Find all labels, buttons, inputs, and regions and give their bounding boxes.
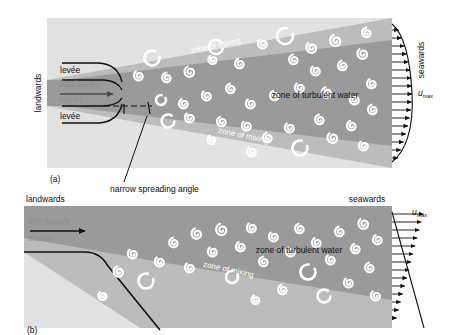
figure-canvas: levée levée distributary mouth landwards… (0, 0, 449, 335)
distributary-label-line1-b: distributary (28, 216, 70, 226)
panel-a: levée levée distributary mouth landwards… (33, 18, 433, 194)
panel-b-tag: (b) (27, 325, 38, 335)
distributary-label-line1-a: distributary (58, 79, 100, 89)
distributary-label-line2-b: mouth (28, 233, 52, 243)
zone-of-turbulent-water-label-a: zone of turbulent water (272, 90, 359, 100)
landwards-label-b: landwards (26, 194, 65, 204)
diagram-svg: levée levée distributary mouth landwards… (0, 0, 449, 335)
zone-of-turbulent-water-label-b: zone of turbulent water (256, 245, 343, 255)
levee-top-label-a: levée (60, 65, 81, 75)
panel-a-tag: (a) (50, 174, 61, 184)
levee-bottom-label-a: levée (60, 111, 81, 121)
narrow-spreading-angle-label: narrow spreading angle (110, 184, 199, 194)
seawards-label-b: seawards (349, 194, 385, 204)
landwards-label-a: landwards (33, 74, 43, 113)
panel-b: distributary mouth landwards seawards zo… (24, 194, 427, 335)
distributary-label-line2-a: mouth (58, 94, 82, 104)
seawards-label-a: seawards (416, 42, 426, 78)
